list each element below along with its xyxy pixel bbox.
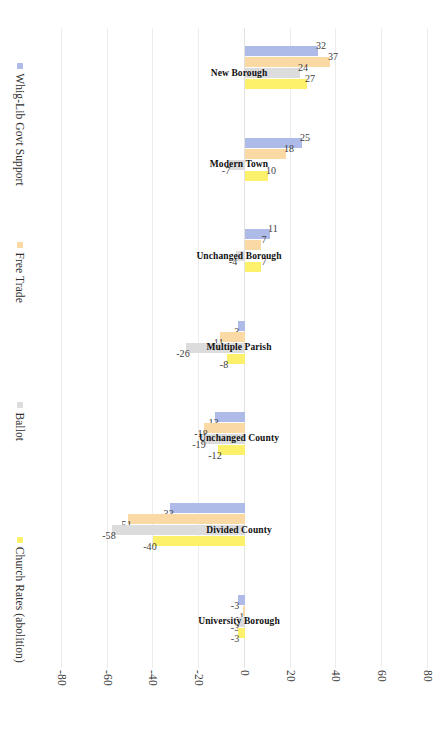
category-label: Multiple Parish <box>206 342 271 352</box>
bar-value-label: 11 <box>268 223 278 234</box>
bar-group: 2518-710Modern Town <box>62 138 428 181</box>
bar-value-label: -40 <box>144 541 158 552</box>
legend-label: Church Rates (abolition) <box>14 547 26 663</box>
legend-item[interactable]: Whig-Lib Govt Support <box>14 63 26 186</box>
bar-group: 32372427New Borough <box>62 46 428 89</box>
bar-group: 117-47Unchanged Borough <box>62 229 428 272</box>
legend-color-swatch <box>17 242 23 248</box>
bar-value-label: 27 <box>305 73 315 84</box>
y-axis-tick-label: -80 <box>56 670 68 686</box>
category-label: Divided County <box>206 525 272 535</box>
bar[interactable] <box>227 354 245 364</box>
bar-group: -33-51-58-40Divided County <box>62 503 428 546</box>
legend-item[interactable]: Ballot <box>14 402 26 441</box>
bar-value-label: -26 <box>176 348 190 359</box>
y-axis-tick-label: 0 <box>239 670 251 676</box>
bar-value-label: 32 <box>316 40 326 51</box>
bar[interactable] <box>245 240 261 250</box>
plot-area: 806040200-20-40-60-8032372427New Borough… <box>62 28 428 668</box>
bar-group: -3-1-3-3University Borough <box>62 595 428 638</box>
category-label: Modern Town <box>210 159 268 169</box>
bar[interactable] <box>204 423 245 433</box>
legend-item[interactable]: Church Rates (abolition) <box>14 537 26 663</box>
y-axis-tick-label: 60 <box>376 670 388 682</box>
chart-rotation-wrapper: 806040200-20-40-60-8032372427New Borough… <box>0 0 442 734</box>
bar-group: -3-11-26-8Multiple Parish <box>62 321 428 364</box>
bar[interactable] <box>245 262 261 272</box>
bar-value-label: 25 <box>300 132 310 143</box>
legend-item[interactable]: Free Trade <box>14 242 26 303</box>
legend-color-swatch <box>17 402 23 408</box>
bar-value-label: -3 <box>231 600 240 611</box>
y-axis-tick-label: -40 <box>148 670 160 686</box>
bar-value-label: 18 <box>284 143 294 154</box>
category-label: New Borough <box>211 68 268 78</box>
category-label: University Borough <box>198 616 280 626</box>
bar-value-label: -3 <box>231 633 240 644</box>
bar[interactable] <box>245 171 268 181</box>
bar[interactable] <box>215 412 245 422</box>
legend-label: Free Trade <box>14 252 26 303</box>
bar[interactable] <box>154 536 246 546</box>
legend-color-swatch <box>17 63 23 69</box>
chart-canvas: 806040200-20-40-60-8032372427New Borough… <box>0 0 442 734</box>
y-axis-tick-label: 80 <box>422 670 434 682</box>
legend-label: Whig-Lib Govt Support <box>14 73 26 186</box>
legend-label: Ballot <box>14 412 26 441</box>
y-axis-tick-label: 20 <box>285 670 297 682</box>
bar[interactable] <box>245 79 307 89</box>
y-axis-tick-label: -20 <box>193 670 205 686</box>
category-label: Unchanged County <box>199 433 279 443</box>
bar-value-label: 37 <box>328 51 338 62</box>
bar-group: -13-18-19-12Unchanged County <box>62 412 428 455</box>
legend-color-swatch <box>17 537 23 543</box>
bar-value-label: -8 <box>219 359 228 370</box>
y-axis-tick-label: -60 <box>102 670 114 686</box>
bar[interactable] <box>245 149 286 159</box>
chart-legend: Whig-Lib Govt SupportFree TradeBallotChu… <box>6 28 28 668</box>
bar-value-label: -12 <box>208 450 222 461</box>
bar[interactable] <box>128 514 245 524</box>
bar[interactable] <box>245 46 318 56</box>
bar-value-label: -58 <box>103 530 117 541</box>
category-label: Unchanged Borough <box>196 251 281 261</box>
y-axis-tick-label: 40 <box>331 670 343 682</box>
bar-value-label: 7 <box>261 234 266 245</box>
bar-value-label: 24 <box>298 62 308 73</box>
bar[interactable] <box>170 503 245 513</box>
bar[interactable] <box>245 57 330 67</box>
